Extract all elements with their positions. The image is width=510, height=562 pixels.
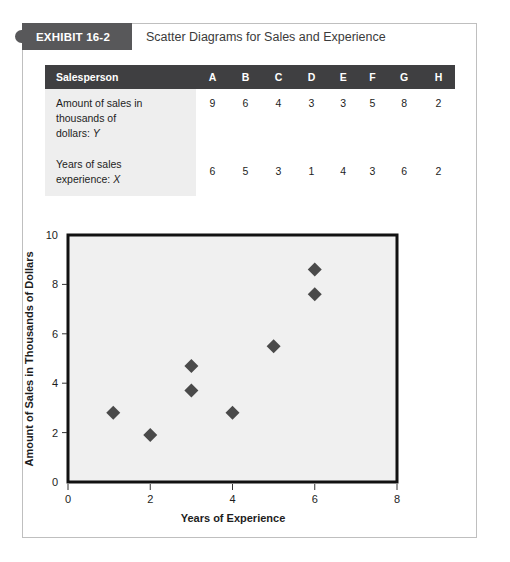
table-header-b: B: [229, 65, 262, 89]
table-header-h: H: [422, 65, 455, 89]
row-label-experience: Years of sales experience: X: [45, 150, 196, 196]
table-header-g: G: [386, 65, 422, 89]
row-label-line3: dollars:: [56, 127, 90, 139]
row-label-line2: experience:: [56, 173, 110, 185]
salesperson-data-table: Salesperson A B C D E F G H Amount of sa…: [45, 65, 455, 196]
exhibit-tab: EXHIBIT 16-2: [22, 23, 132, 50]
cell-y-e: 3: [328, 89, 358, 150]
table-head: Salesperson A B C D E F G H: [45, 65, 455, 89]
exhibit-title-text: Scatter Diagrams for Sales and Experienc…: [146, 30, 386, 44]
table-header-a: A: [196, 65, 229, 89]
cell-y-c: 4: [262, 89, 295, 150]
cell-x-g: 6: [386, 150, 422, 196]
table-header-salesperson: Salesperson: [45, 65, 196, 89]
table-row: Amount of sales in thousands of dollars:…: [45, 89, 455, 150]
cell-y-a: 9: [196, 89, 229, 150]
cell-x-b: 5: [229, 150, 262, 196]
table-body: Amount of sales in thousands of dollars:…: [45, 89, 455, 196]
row-label-variable: Y: [93, 127, 100, 139]
exhibit-tab-bump: [15, 30, 29, 43]
table-header-d: D: [295, 65, 328, 89]
cell-x-d: 1: [295, 150, 328, 196]
row-label-variable: X: [113, 173, 120, 185]
table-header-e: E: [328, 65, 358, 89]
row-label-line1: Amount of sales in: [56, 97, 142, 109]
cell-y-f: 5: [358, 89, 386, 150]
cell-x-e: 4: [328, 150, 358, 196]
exhibit-header: EXHIBIT 16-2 Scatter Diagrams for Sales …: [22, 23, 477, 50]
table-header-c: C: [262, 65, 295, 89]
table-header-row: Salesperson A B C D E F G H: [45, 65, 455, 89]
cell-x-h: 2: [422, 150, 455, 196]
row-label-sales: Amount of sales in thousands of dollars:…: [45, 89, 196, 150]
cell-x-a: 6: [196, 150, 229, 196]
cell-y-h: 2: [422, 89, 455, 150]
cell-y-d: 3: [295, 89, 328, 150]
cell-x-c: 3: [262, 150, 295, 196]
cell-y-b: 6: [229, 89, 262, 150]
row-label-line1: Years of sales: [56, 158, 122, 170]
cell-x-f: 3: [358, 150, 386, 196]
exhibit-tab-label: EXHIBIT 16-2: [36, 31, 110, 43]
table-row: Years of sales experience: X 6 5 3 1 4 3…: [45, 150, 455, 196]
cell-y-g: 8: [386, 89, 422, 150]
exhibit-title: Scatter Diagrams for Sales and Experienc…: [132, 23, 477, 50]
table-header-f: F: [358, 65, 386, 89]
row-label-line2: thousands of: [56, 112, 116, 124]
